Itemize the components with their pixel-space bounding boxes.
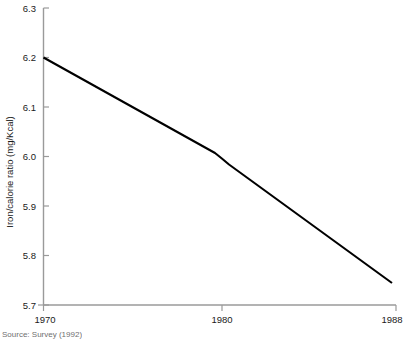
y-tick-label: 6.1 [23, 102, 36, 113]
y-tick-label: 5.8 [23, 250, 36, 261]
y-tick-label: 6.2 [23, 52, 36, 63]
x-tick-label: 1980 [211, 314, 232, 325]
y-tick-label: 6.0 [23, 151, 36, 162]
y-tick-label: 5.9 [23, 201, 36, 212]
y-tick-label: 5.7 [23, 300, 36, 311]
y-axis-title: Iron/calorie ratio (mg/Kcal) [4, 116, 15, 227]
x-tick-label: 1970 [34, 314, 55, 325]
data-line-iron-calorie-ratio [44, 58, 393, 284]
source-caption: Source: Survey (1992) [2, 330, 82, 339]
x-tick-label: 1988 [381, 314, 402, 325]
y-tick-label: 6.3 [23, 3, 36, 14]
